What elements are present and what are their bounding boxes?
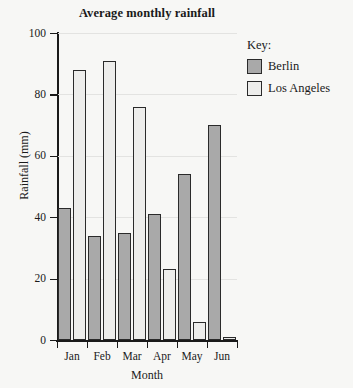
legend-swatch-icon <box>247 59 262 74</box>
x-axis-label-jun: Jun <box>202 350 242 362</box>
bar-los-angeles-jan <box>73 70 86 340</box>
bar-los-angeles-feb <box>103 61 116 340</box>
y-axis-tick-label: 60 <box>35 150 51 162</box>
bar-berlin-may <box>178 174 191 340</box>
x-axis-tick <box>147 341 148 348</box>
legend-item-berlin: Berlin <box>247 59 330 74</box>
y-axis-tick: 80 <box>50 94 57 95</box>
bar-berlin-jan <box>58 208 71 340</box>
x-axis-tick <box>177 341 178 348</box>
y-axis-tick: 40 <box>50 217 57 218</box>
legend: Key: BerlinLos Angeles <box>247 38 330 103</box>
y-axis-tick-label: 0 <box>40 335 50 347</box>
y-axis-tick: 60 <box>50 156 57 157</box>
legend-rows: BerlinLos Angeles <box>247 59 330 96</box>
x-axis-tick <box>237 341 238 348</box>
y-axis-tick: 0 <box>50 340 57 341</box>
legend-item-los-angeles: Los Angeles <box>247 81 330 96</box>
x-axis-tick <box>207 341 208 348</box>
y-axis-tick: 100 <box>50 33 57 34</box>
x-axis-title: Month <box>57 368 237 383</box>
bar-los-angeles-mar <box>133 107 146 340</box>
bar-los-angeles-may <box>193 322 206 340</box>
bar-berlin-feb <box>88 236 101 340</box>
bar-berlin-jun <box>208 125 221 340</box>
bar-berlin-mar <box>118 233 131 340</box>
x-axis-tick <box>57 341 58 348</box>
legend-swatch-icon <box>247 81 262 96</box>
bar-los-angeles-apr <box>163 269 176 340</box>
y-axis-tick-label: 80 <box>35 89 51 101</box>
y-axis-tick-label: 40 <box>35 212 51 224</box>
y-axis-title: Rainfall (mm) <box>17 106 32 226</box>
y-axis-tick-label: 20 <box>35 273 51 285</box>
rainfall-bar-chart: Average monthly rainfall Rainfall (mm) M… <box>0 0 353 388</box>
plot-area <box>57 33 237 340</box>
y-axis-tick: 20 <box>50 279 57 280</box>
legend-title: Key: <box>247 38 330 53</box>
bar-berlin-apr <box>148 214 161 340</box>
legend-label: Los Angeles <box>268 81 330 96</box>
legend-label: Berlin <box>268 59 299 74</box>
x-axis-tick <box>87 341 88 348</box>
chart-title: Average monthly rainfall <box>57 6 237 21</box>
bar-los-angeles-jun <box>223 337 236 340</box>
x-axis-tick <box>117 341 118 348</box>
y-axis-tick-label: 100 <box>29 28 50 40</box>
